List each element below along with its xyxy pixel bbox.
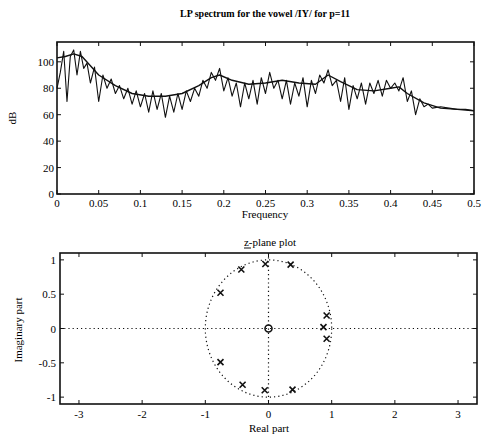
x-tick-label: -1 — [201, 408, 210, 420]
lp-envelope-line — [57, 54, 474, 111]
x-tick-label: 0.05 — [89, 197, 109, 209]
pole-marker — [262, 261, 268, 267]
x-tick-label: 0.35 — [339, 197, 359, 209]
x-tick-label: 0.2 — [217, 197, 231, 209]
y-tick-label: 1 — [51, 254, 57, 266]
pole-marker — [288, 262, 294, 268]
x-tick-label: 0.15 — [172, 197, 192, 209]
x-tick-label: 0 — [266, 408, 272, 420]
x-tick-label: 2 — [392, 408, 398, 420]
plot-frame — [57, 42, 474, 194]
pole-marker — [290, 387, 296, 393]
pole-marker — [240, 382, 246, 388]
pole-marker — [217, 359, 223, 365]
zplane-ylabel: Imaginary part — [12, 297, 24, 362]
y-tick-label: 0 — [49, 188, 55, 200]
spectrum-ylabel: dB — [6, 112, 18, 125]
y-tick-label: -0.5 — [39, 357, 57, 369]
x-tick-label: 0.45 — [423, 197, 443, 209]
y-tick-label: 40 — [43, 135, 55, 147]
y-tick-label: -1 — [47, 391, 56, 403]
pole-marker — [238, 266, 244, 272]
zplane-title: z-plane plot — [244, 236, 296, 248]
y-tick-label: 20 — [43, 162, 55, 174]
y-tick-label: 60 — [43, 109, 55, 121]
y-tick-label: 100 — [38, 56, 55, 68]
zplane-plot: -3-2-10123-1-0.500.51 — [39, 253, 477, 420]
x-tick-label: 0.5 — [467, 197, 481, 209]
x-tick-label: -2 — [138, 408, 147, 420]
pole-marker — [324, 336, 330, 342]
zplane-xlabel: Real part — [249, 422, 289, 434]
pole-marker — [324, 312, 330, 318]
pole-marker — [217, 290, 223, 296]
spectrum-xlabel: Frequency — [242, 208, 289, 220]
x-tick-label: 0 — [54, 197, 60, 209]
x-tick-label: 0.1 — [134, 197, 148, 209]
x-tick-label: -3 — [74, 408, 84, 420]
spectrum-title: LP spectrum for the vowel /IY/ for p=11 — [180, 8, 350, 19]
pole-marker — [262, 387, 268, 393]
y-tick-label: 0.5 — [42, 288, 56, 300]
y-tick-label: 80 — [43, 82, 55, 94]
plot-frame — [60, 253, 477, 404]
figure: LP spectrum for the vowel /IY/ for p=11 … — [0, 0, 499, 438]
x-tick-label: 0.4 — [384, 197, 398, 209]
pole-marker — [320, 324, 326, 330]
x-tick-label: 0.3 — [300, 197, 314, 209]
x-tick-label: 3 — [455, 408, 461, 420]
x-tick-label: 1 — [329, 408, 335, 420]
spectrum-plot: 00.050.10.150.20.250.30.350.40.450.50204… — [38, 42, 482, 209]
y-tick-label: 0 — [51, 323, 57, 335]
